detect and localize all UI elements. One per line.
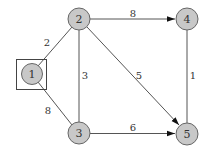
edge-1-3	[38, 82, 72, 125]
edge-label-1-3: 8	[45, 105, 51, 116]
node-4: 4	[176, 8, 198, 30]
svg-text:2: 2	[76, 13, 83, 26]
svg-text:1: 1	[29, 68, 36, 81]
edge-label-4-5: 1	[190, 70, 196, 81]
edge-2-5	[87, 27, 179, 125]
edge-label-2-5: 5	[136, 70, 142, 81]
svg-text:4: 4	[184, 13, 191, 26]
node-5: 5	[176, 123, 198, 145]
svg-text:5: 5	[184, 128, 191, 141]
edge-label-1-2: 2	[44, 37, 50, 48]
edge-label-3-5: 6	[130, 122, 136, 133]
graph-diagram: 2 8 3 8 5 6 1 1 2 3 4 5	[0, 0, 206, 157]
node-2: 2	[68, 8, 90, 30]
node-3: 3	[68, 122, 90, 144]
svg-text:3: 3	[76, 127, 83, 140]
edge-label-2-3: 3	[82, 70, 88, 81]
node-1: 1	[22, 64, 43, 85]
edge-label-2-4: 8	[130, 8, 136, 19]
